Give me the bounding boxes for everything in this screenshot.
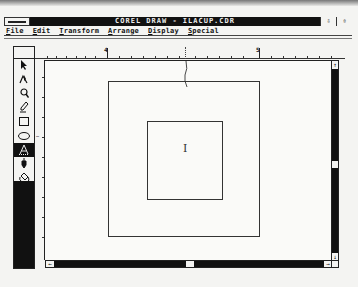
rectangle-tool-button[interactable]	[14, 115, 34, 129]
ruler-minor-tick	[295, 56, 296, 58]
menu-edit-label: dit	[37, 27, 50, 35]
text-tool-icon	[18, 144, 30, 157]
vertical-scrollbar[interactable]: ↑ ↓	[331, 60, 339, 262]
cursor-position-guide	[185, 47, 186, 59]
ruler-major-tick	[107, 48, 108, 58]
ruler-minor-tick	[179, 56, 180, 58]
menu-arrange[interactable]: Arrange	[108, 27, 139, 35]
ruler-minor-tick	[76, 56, 77, 58]
ruler-minor-tick	[331, 56, 332, 58]
ellipse-icon	[18, 131, 30, 142]
ruler-minor-tick	[95, 56, 96, 58]
menu-special-label: pecial	[192, 27, 219, 35]
magnifier-icon	[20, 88, 29, 100]
maximize-button[interactable]: ⇳	[336, 17, 352, 26]
ruler-minor-tick	[219, 56, 220, 58]
toolbox	[13, 46, 35, 269]
scroll-up-arrow-icon[interactable]: ↑	[332, 61, 338, 69]
ruler-minor-tick	[155, 56, 156, 58]
toolbox-filler	[14, 181, 34, 268]
outline-tool-button[interactable]	[14, 157, 34, 171]
menu-edit[interactable]: Edit	[33, 27, 51, 35]
title-bar: COREL DRAW - ILACUP.CDR ⇩ ⇳	[4, 17, 352, 26]
pick-arrow-icon	[20, 60, 28, 72]
window-title: COREL DRAW - ILACUP.CDR	[30, 17, 320, 26]
ellipse-tool-button[interactable]	[14, 129, 34, 143]
text-cursor-icon: I	[183, 142, 187, 155]
minimize-button[interactable]: ⇩	[320, 17, 336, 26]
menu-file-label: ile	[10, 27, 23, 35]
ruler-minor-tick	[47, 56, 48, 58]
ruler-minor-tick	[131, 56, 132, 58]
horizontal-scrollbar[interactable]: ← →	[45, 260, 333, 268]
vertical-ruler[interactable]	[35, 59, 44, 264]
menu-transform-label: ransform	[64, 27, 99, 35]
menu-separator	[4, 38, 352, 39]
shape-tool-button[interactable]	[14, 73, 34, 87]
zoom-tool-button[interactable]	[14, 87, 34, 101]
ruler-minor-tick	[66, 56, 67, 58]
ruler-minor-tick	[85, 56, 86, 58]
ruler-minor-tick	[231, 56, 232, 58]
system-menu-button[interactable]	[4, 17, 30, 26]
menu-bar: File Edit Transform Arrange Display Spec…	[4, 26, 352, 36]
horizontal-scroll-thumb[interactable]	[186, 261, 194, 267]
ruler-minor-tick	[143, 56, 144, 58]
ruler-minor-tick	[56, 56, 57, 58]
top-shadow	[0, 0, 358, 6]
ruler-major-tick	[259, 48, 260, 58]
shape-node-icon	[19, 74, 29, 86]
menu-arrange-label: rrange	[113, 27, 140, 35]
horizontal-ruler[interactable]: 4 5	[35, 47, 345, 59]
pick-tool-button[interactable]	[14, 59, 34, 73]
rectangle-icon	[19, 117, 29, 128]
ruler-minor-tick	[283, 56, 284, 58]
ruler-minor-tick	[207, 56, 208, 58]
menu-file[interactable]: File	[6, 27, 24, 35]
drawing-canvas[interactable]: I	[44, 60, 331, 260]
window-buttons: ⇩ ⇳	[320, 17, 352, 26]
vertical-ruler-position-marker: ⋯	[36, 133, 39, 139]
pen-nib-icon	[20, 158, 28, 171]
inner-rectangle[interactable]	[147, 121, 223, 200]
menu-special[interactable]: Special	[188, 27, 219, 35]
pencil-icon	[20, 102, 29, 115]
menu-display-label: isplay	[152, 27, 179, 35]
scroll-left-arrow-icon[interactable]: ←	[46, 261, 54, 267]
menu-transform[interactable]: Transform	[59, 27, 99, 35]
menu-display[interactable]: Display	[148, 27, 179, 35]
ruler-origin-box	[14, 47, 34, 59]
ruler-minor-tick	[307, 56, 308, 58]
text-tool-button[interactable]	[14, 143, 34, 157]
vertical-scroll-thumb[interactable]	[332, 161, 338, 168]
pencil-tool-button[interactable]	[14, 101, 34, 115]
scrollbar-corner	[331, 260, 339, 268]
ruler-minor-tick	[195, 56, 196, 58]
ruler-minor-tick	[271, 56, 272, 58]
ruler-minor-tick	[243, 56, 244, 58]
ruler-minor-tick	[167, 56, 168, 58]
ruler-minor-tick	[319, 56, 320, 58]
ruler-minor-tick	[119, 56, 120, 58]
